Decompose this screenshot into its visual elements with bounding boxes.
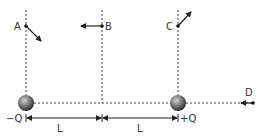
field-arrow-a	[26, 26, 41, 41]
electric-field-diagram: A B C D L L −Q +Q	[0, 0, 267, 139]
point-b-dot	[100, 24, 104, 28]
positive-charge-sphere	[170, 95, 186, 111]
dimension-label-1: L	[57, 123, 63, 134]
negative-charge-label: −Q	[6, 113, 22, 124]
positive-charge-label: +Q	[180, 113, 196, 124]
point-d-dot	[251, 101, 255, 105]
point-d-label: D	[245, 87, 253, 98]
point-a-label: A	[14, 21, 21, 32]
point-a-dot	[24, 24, 28, 28]
point-c-dot	[176, 24, 180, 28]
point-b-label: B	[105, 21, 112, 32]
dimension-label-2: L	[137, 123, 143, 134]
point-c-label: C	[166, 21, 173, 32]
negative-charge-sphere	[18, 95, 34, 111]
field-arrow-c	[178, 12, 191, 26]
